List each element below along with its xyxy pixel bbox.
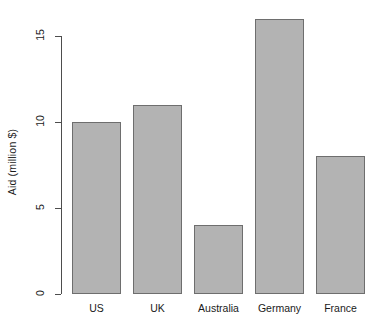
y-axis-tick-label: 5 bbox=[34, 195, 46, 219]
y-axis-title-text: Aid (million $) bbox=[6, 129, 18, 196]
bar-australia[interactable] bbox=[194, 225, 243, 294]
y-axis-tick-mark bbox=[55, 122, 61, 123]
y-axis-title: Aid (million $) bbox=[0, 0, 24, 332]
x-axis-label-us: US bbox=[72, 302, 121, 314]
bar-france[interactable] bbox=[316, 156, 365, 294]
x-axis-label-france: France bbox=[316, 302, 365, 314]
y-axis-tick-mark bbox=[55, 294, 61, 295]
y-axis-tick-mark bbox=[55, 36, 61, 37]
bar-uk[interactable] bbox=[133, 105, 182, 294]
y-axis-tick-label: 0 bbox=[34, 281, 46, 305]
y-axis-line bbox=[61, 36, 62, 294]
x-axis-label-germany: Germany bbox=[255, 302, 304, 314]
bar-germany[interactable] bbox=[255, 19, 304, 294]
y-axis-tick-label: 15 bbox=[34, 23, 46, 47]
x-axis-label-australia: Australia bbox=[194, 302, 243, 314]
bar-chart: Aid (million $) 151050 USUKAustraliaGerm… bbox=[0, 0, 367, 332]
y-axis-tick-mark bbox=[55, 208, 61, 209]
y-axis-tick-label: 10 bbox=[34, 109, 46, 133]
bar-us[interactable] bbox=[72, 122, 121, 294]
x-axis-label-uk: UK bbox=[133, 302, 182, 314]
